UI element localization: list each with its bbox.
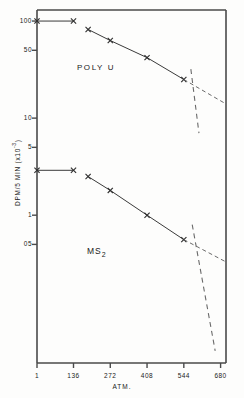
y-axis-title: DPM/5 MIN (x10-3) [11,118,20,228]
axis-frame [37,10,226,363]
trend-line [88,29,184,79]
y-axis-title-text: DPM/5 MIN (x10 [14,148,21,206]
dashed-line-ms2-breakpoint [192,225,215,351]
dashed-breakpoint-layer [191,69,215,351]
x-tick-label-544: 544 [166,372,202,379]
y-tick-label-5: 5 [28,143,32,150]
y-axis-title-exponent: -3 [11,142,17,148]
series-poly-u [34,18,226,103]
x-axis-title: ATM. [0,383,244,390]
y-axis-title-close: ) [14,139,21,142]
annotation-ms2-subscript: 2 [102,250,107,257]
trend-line [88,177,184,240]
y-tick-label-100: 100 [20,17,32,24]
x-tick-label-136: 136 [56,372,92,379]
series-ms2 [34,168,226,262]
y-tick-label-50: 50 [24,46,32,53]
dashed-line-poly-u-breakpoint [191,69,199,133]
x-tick-label-680: 680 [203,372,239,379]
annotation-ms2-base: MS [87,246,102,256]
dashed-extension-line [184,79,226,103]
annotation-ms2: MS2 [87,246,107,258]
y-tick-label-10: 10 [24,114,32,121]
dashed-extension-line [184,240,226,262]
y-tick-label-05: 05 [24,240,32,247]
x-tick-label-408: 408 [129,372,165,379]
figure-container: 10050105105 1136272408544680 DPM/5 MIN (… [0,0,244,398]
data-series-layer [34,18,226,261]
x-tick-label-272: 272 [92,372,128,379]
x-tick-label-1: 1 [19,372,55,379]
annotation-poly-u: POLY U [77,63,115,72]
y-tick-label-1: 1 [28,211,32,218]
plot-area [0,0,244,398]
